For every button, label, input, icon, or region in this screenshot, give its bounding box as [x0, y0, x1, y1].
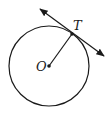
diagram-canvas: O T — [0, 0, 112, 121]
tangent-point-label: T — [73, 18, 83, 33]
radius-segment-OT — [49, 34, 72, 66]
circle-tangent-diagram: O T — [0, 0, 112, 121]
center-point-O — [47, 64, 51, 68]
center-label: O — [36, 59, 47, 74]
